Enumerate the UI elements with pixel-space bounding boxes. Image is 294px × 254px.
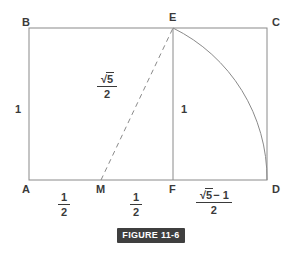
figure-container: B C A D E F M 1 1 √5 2 1 2 1 2 √5− 1 2 F… bbox=[0, 0, 294, 254]
mf-denominator: 2 bbox=[130, 204, 142, 218]
mf-numerator: 1 bbox=[130, 191, 142, 204]
me-radicand: 5 bbox=[106, 72, 114, 85]
measure-label-ef: 1 bbox=[181, 104, 187, 115]
vertex-label-d: D bbox=[272, 184, 280, 195]
fd-numerator-rest: − 1 bbox=[213, 189, 229, 201]
fd-radicand: 5 bbox=[205, 188, 213, 201]
radical-sign-fd: √5 bbox=[199, 188, 213, 201]
fd-numerator: √5− 1 bbox=[196, 188, 232, 202]
vertex-label-c: C bbox=[272, 17, 280, 28]
vertex-label-m: M bbox=[96, 184, 105, 195]
figure-caption-banner: FIGURE 11-6 bbox=[117, 228, 185, 243]
measure-label-left-side: 1 bbox=[15, 104, 21, 115]
segment-me-dashed bbox=[101, 28, 173, 180]
geometry-drawing bbox=[0, 0, 294, 254]
me-denominator: 2 bbox=[97, 86, 117, 100]
vertex-label-e: E bbox=[169, 12, 177, 23]
measure-label-am: 1 2 bbox=[58, 191, 70, 219]
measure-label-mf: 1 2 bbox=[130, 191, 142, 219]
vertex-label-f: F bbox=[169, 184, 176, 195]
me-numerator: √5 bbox=[97, 72, 117, 86]
am-numerator: 1 bbox=[58, 191, 70, 204]
am-denominator: 2 bbox=[58, 204, 70, 218]
measure-label-me: √5 2 bbox=[97, 72, 117, 101]
rectangle-abcd bbox=[29, 28, 267, 180]
fd-denominator: 2 bbox=[196, 202, 232, 216]
figure-caption-text: FIGURE 11-6 bbox=[122, 231, 179, 240]
radical-sign-me: √5 bbox=[100, 72, 114, 85]
vertex-label-b: B bbox=[22, 17, 30, 28]
measure-label-fd: √5− 1 2 bbox=[196, 188, 232, 217]
vertex-label-a: A bbox=[22, 184, 30, 195]
